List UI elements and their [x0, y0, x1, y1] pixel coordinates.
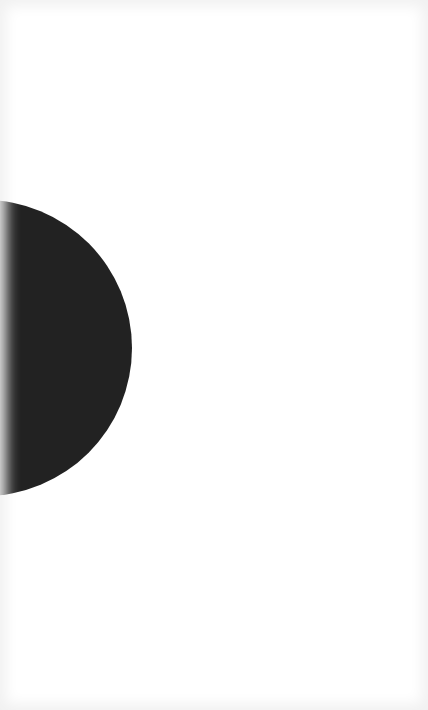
dark-half-circle-shape: [0, 200, 132, 496]
blank-screen: [0, 0, 428, 710]
